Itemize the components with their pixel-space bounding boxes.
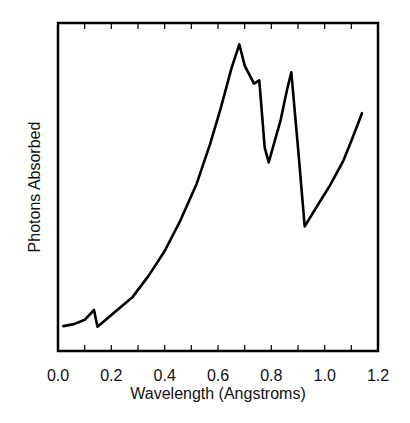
x-tick-label: 0.0: [47, 367, 69, 384]
x-axis-title: Wavelength (Angstroms): [130, 385, 305, 402]
x-tick-label: 0.6: [207, 367, 229, 384]
x-tick-label: 1.2: [367, 367, 389, 384]
y-axis-title: Photons Absorbed: [26, 122, 43, 253]
x-tick-label: 0.8: [260, 367, 282, 384]
x-tick-label: 1.0: [314, 367, 336, 384]
x-axis-tick-labels: 0.00.20.40.60.81.01.2: [47, 367, 389, 384]
absorption-chart: 0.00.20.40.60.81.01.2 Wavelength (Angstr…: [0, 0, 410, 423]
x-tick-label: 0.2: [100, 367, 122, 384]
absorption-curve: [63, 44, 362, 326]
x-axis-ticks: [85, 23, 352, 351]
x-tick-label: 0.4: [154, 367, 176, 384]
